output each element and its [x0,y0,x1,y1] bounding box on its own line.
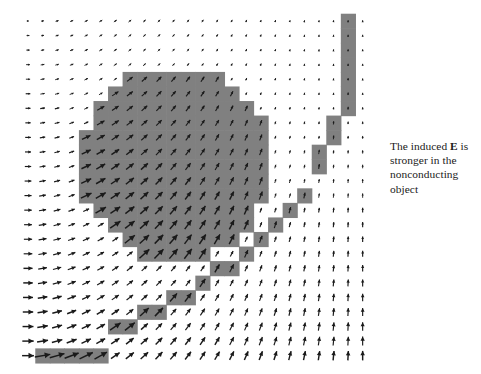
caption-line1-a: The induced [390,140,450,152]
caption-line3: nonconducting [390,168,458,180]
vector-field-figure: The induced E is stronger in the noncond… [0,0,481,374]
caption-field-symbol: E [450,140,458,152]
caption-line4: object [390,183,418,195]
caption-line1-b: is [458,140,469,152]
caption-line2: stronger in the [390,154,457,166]
caption-text: The induced E is stronger in the noncond… [390,139,481,196]
